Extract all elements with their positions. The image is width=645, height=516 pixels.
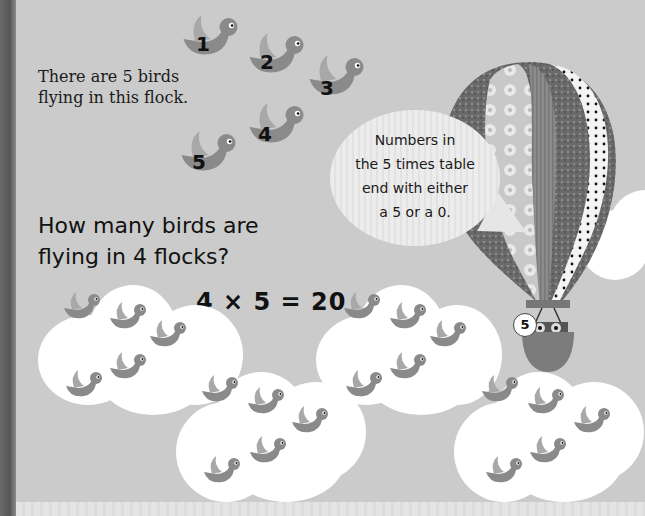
bird-icon (388, 350, 430, 382)
bird-number: 1 (196, 32, 210, 56)
bird-icon (304, 52, 372, 100)
bird-icon (342, 290, 384, 322)
book-page: There are 5 birds flying in this flock. … (0, 0, 645, 516)
bird-icon (344, 368, 386, 400)
question-line-1: How many birds are (38, 210, 298, 241)
question-line-2: flying in 4 flocks? (38, 241, 298, 272)
bubble-line-2: the 5 times table (336, 152, 494, 176)
bird-icon (108, 300, 150, 332)
bird-icon (388, 300, 430, 332)
bird-icon (178, 12, 246, 60)
bird-icon (64, 368, 106, 400)
bird-icon (200, 373, 242, 405)
bird-icon (484, 454, 526, 486)
intro-text: There are 5 birds flying in this flock. (38, 66, 218, 108)
speech-bubble-text: Numbers in the 5 times table end with ei… (336, 128, 494, 224)
page-bottom-strip (16, 502, 645, 516)
bird-icon (202, 454, 244, 486)
book-spine (0, 0, 16, 516)
bubble-line-4: a 5 or a 0. (336, 200, 494, 224)
bird-number: 3 (320, 76, 334, 100)
bird-number: 4 (258, 122, 272, 146)
bird-icon (572, 404, 614, 436)
bird-icon (108, 350, 150, 382)
bird-number: 2 (260, 50, 274, 74)
bird-icon (176, 128, 244, 176)
intro-line-1: There are 5 birds (38, 66, 218, 87)
question-text: How many birds are flying in 4 flocks? (38, 210, 298, 272)
bird-icon (290, 404, 332, 436)
bird-icon (148, 318, 190, 350)
balloon-badge: 5 (513, 313, 537, 337)
bird-icon (244, 100, 312, 148)
intro-line-2: flying in this flock. (38, 87, 218, 108)
bird-number: 5 (192, 150, 206, 174)
bubble-line-1: Numbers in (336, 128, 494, 152)
bubble-line-3: end with either (336, 176, 494, 200)
bird-icon (244, 30, 312, 78)
bird-icon (248, 434, 290, 466)
bird-icon (62, 290, 104, 322)
bird-icon (246, 385, 288, 417)
bird-icon (528, 434, 570, 466)
